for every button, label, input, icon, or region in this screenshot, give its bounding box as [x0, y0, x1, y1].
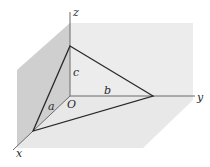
- plane-intercept-diagram: z y x O c b a: [0, 0, 210, 167]
- z-axis-label: z: [72, 6, 79, 19]
- yz-plane-back-wall: [70, 23, 193, 96]
- b-intercept-label: b: [104, 84, 111, 97]
- y-axis-label: y: [196, 91, 204, 104]
- x-axis-label: x: [16, 147, 23, 160]
- origin-label: O: [67, 98, 76, 111]
- c-intercept-label: c: [73, 66, 79, 79]
- a-intercept-label: a: [48, 100, 55, 113]
